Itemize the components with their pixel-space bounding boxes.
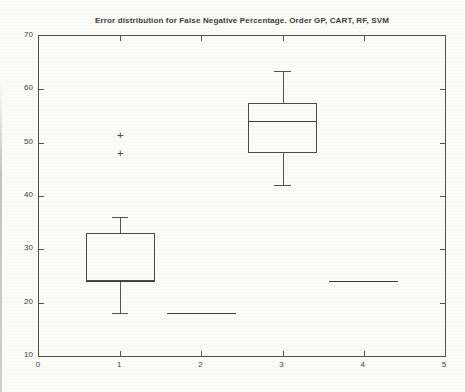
y-tick-label: 40 — [2, 190, 33, 200]
y-tick-label: 50 — [2, 137, 33, 147]
median-line — [86, 281, 155, 282]
x-tick-bottom — [364, 351, 365, 356]
x-tick-top — [201, 36, 202, 41]
boxplot-figure: Error distribution for False Negative Pe… — [0, 0, 465, 392]
x-tick-bottom — [283, 351, 284, 356]
collapsed-box-median-line — [167, 313, 236, 314]
iqr-box — [86, 233, 155, 281]
y-tick-label: 30 — [2, 243, 33, 253]
scan-edge-artifact — [0, 80, 2, 392]
lower-whisker-cap — [112, 313, 128, 314]
lower-whisker-stem — [283, 153, 284, 185]
y-tick-right — [440, 249, 445, 250]
x-tick-label: 3 — [272, 360, 292, 370]
y-tick-right — [440, 143, 445, 144]
y-tick-label: 20 — [2, 297, 33, 307]
plot-area: ++ — [38, 35, 446, 357]
y-tick-left — [39, 89, 44, 90]
y-tick-left — [39, 143, 44, 144]
y-tick-right — [440, 89, 445, 90]
x-tick-top — [283, 36, 284, 41]
plus-marker: + — [117, 129, 124, 140]
x-tick-label: 1 — [109, 360, 129, 370]
y-tick-label: 70 — [2, 30, 33, 40]
y-tick-left — [39, 249, 44, 250]
upper-whisker-cap — [274, 71, 290, 72]
x-tick-bottom — [120, 351, 121, 356]
y-tick-left — [39, 303, 44, 304]
y-tick-right — [440, 196, 445, 197]
x-tick-label: 0 — [28, 360, 48, 370]
y-tick-right — [440, 303, 445, 304]
collapsed-box-median-line — [329, 281, 398, 282]
x-tick-top — [120, 36, 121, 41]
x-tick-label: 2 — [190, 360, 210, 370]
x-tick-top — [364, 36, 365, 41]
upper-whisker-cap — [112, 217, 128, 218]
y-tick-left — [39, 196, 44, 197]
upper-whisker-stem — [120, 217, 121, 233]
y-tick-label: 60 — [2, 83, 33, 93]
y-tick-label: 10 — [2, 350, 33, 360]
iqr-box — [248, 103, 317, 154]
x-tick-label: 4 — [353, 360, 373, 370]
median-line — [248, 121, 317, 122]
upper-whisker-stem — [283, 71, 284, 103]
plus-marker: + — [117, 148, 124, 159]
x-tick-label: 5 — [434, 360, 454, 370]
lower-whisker-cap — [274, 185, 290, 186]
lower-whisker-stem — [120, 281, 121, 313]
chart-title: Error distribution for False Negative Pe… — [38, 16, 446, 25]
x-tick-bottom — [201, 351, 202, 356]
